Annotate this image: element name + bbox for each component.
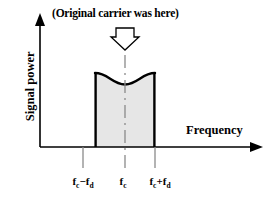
tick-2-sub1: c bbox=[153, 181, 156, 190]
x-tick-label-upper: fc+fd bbox=[139, 176, 181, 187]
tick-0-sub2: d bbox=[89, 181, 93, 190]
x-axis-label: Frequency bbox=[186, 124, 243, 137]
carrier-pointer-arrow-icon bbox=[111, 28, 139, 50]
tick-2-sub2: d bbox=[166, 181, 170, 190]
doppler-spectrum-figure: (Original carrier was here) Signal power… bbox=[0, 0, 280, 205]
carrier-annotation-label: (Original carrier was here) bbox=[52, 8, 179, 20]
y-axis-arrowhead-icon bbox=[35, 13, 45, 26]
y-axis-label: Signal power bbox=[24, 38, 37, 134]
x-tick-label-lower: fc−fd bbox=[62, 176, 104, 187]
tick-0-sub1: c bbox=[76, 181, 79, 190]
x-axis-arrowhead-icon bbox=[250, 142, 263, 152]
spectrum-plot bbox=[0, 0, 280, 205]
x-tick-label-carrier: fc bbox=[112, 176, 134, 187]
tick-1-sub1: c bbox=[123, 181, 126, 190]
